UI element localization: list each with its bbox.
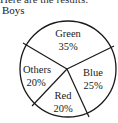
slice-value-green: 35% <box>58 41 78 52</box>
slice-label-blue: Blue <box>83 67 103 78</box>
slice-value-blue: 25% <box>83 80 103 91</box>
slice-label-red: Red <box>55 90 73 101</box>
slice-value-red: 20% <box>53 103 73 114</box>
slice-label-others: Others <box>23 64 51 75</box>
pie-chart: Green 35% Blue 25% Red 20% Others 20% <box>0 0 118 123</box>
slice-label-green: Green <box>55 28 81 39</box>
slice-value-others: 20% <box>26 77 46 88</box>
